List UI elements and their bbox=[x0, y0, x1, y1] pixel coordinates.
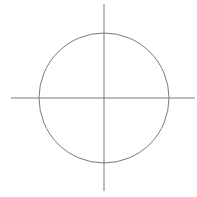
diagram-canvas bbox=[0, 0, 197, 197]
